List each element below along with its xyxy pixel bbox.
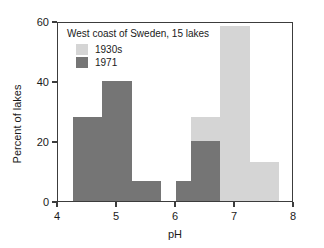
y-tick-label: 20 [37,137,49,148]
plot-area: West coast of Sweden, 15 lakes 1930s1971 [57,22,293,202]
y-tick-label: 60 [37,17,49,28]
x-axis-title: pH [57,228,293,240]
legend-label: 1971 [95,57,117,68]
x-tick-label: 6 [172,210,178,222]
x-tick-label: 8 [290,210,296,222]
x-tick-mark [174,202,176,207]
x-tick-mark [292,202,294,207]
x-tick-label: 7 [231,210,237,222]
x-axis: 45678 pH [57,202,293,248]
legend-title: West coast of Sweden, 15 lakes [67,28,267,39]
y-tick-label: 40 [37,77,49,88]
x-tick-label: 4 [54,210,60,222]
bar-1971-4.25 [73,117,103,201]
legend-swatch-icon [76,44,88,55]
legend-swatch-icon [76,57,88,68]
bar-1930s-7.25 [250,162,280,201]
bar-1971-4.75 [102,81,132,201]
x-tick-label: 5 [113,210,119,222]
y-tick-label: 0 [43,197,49,208]
x-tick-mark [233,202,235,207]
y-axis: 0204060 Percent of lakes [0,0,57,248]
bar-1971-5.25 [132,181,162,201]
legend-item-1930s: 1930s [76,44,267,55]
legend-label: 1930s [95,44,122,55]
x-tick-mark [56,202,58,207]
legend-entries: 1930s1971 [67,44,267,68]
bar-1930s-6.25 [191,117,221,141]
x-tick-mark [115,202,117,207]
bar-1971-6.25 [191,141,221,201]
legend-item-1971: 1971 [76,57,267,68]
chart-legend: West coast of Sweden, 15 lakes 1930s1971 [67,28,267,70]
chart-figure: 0204060 Percent of lakes West coast of S… [0,0,324,248]
y-axis-title: Percent of lakes [11,59,23,189]
